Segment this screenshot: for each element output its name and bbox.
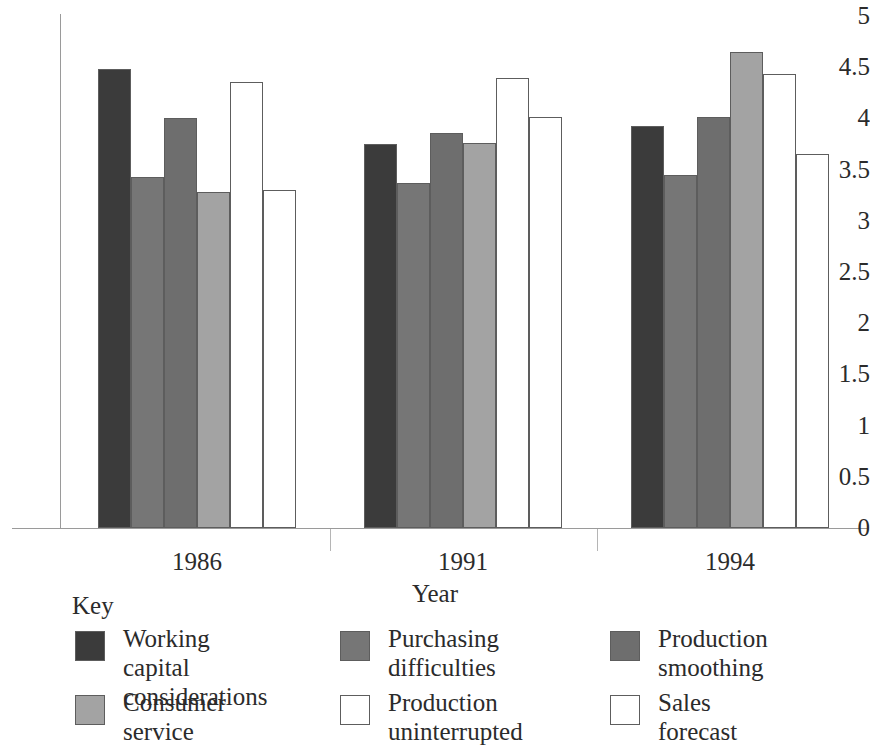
plot-area: 00.511.522.533.544.55 198619911994 Year xyxy=(0,0,870,600)
legend-swatch-icon xyxy=(610,631,640,661)
legend-swatch-icon xyxy=(340,695,370,725)
legend-item-label: Production smoothing xyxy=(658,624,768,682)
x-axis-line xyxy=(12,528,867,529)
x-axis-group-label: 1986 xyxy=(137,548,257,576)
legend-item-label: Sales forecast xyxy=(658,688,737,746)
y-axis-line xyxy=(60,14,61,529)
bar xyxy=(697,117,730,528)
bar xyxy=(730,52,763,528)
x-axis-group-separator xyxy=(330,529,331,551)
legend-item-label: Consumer service xyxy=(123,688,226,746)
bar xyxy=(230,82,263,528)
y-axis-tick-label: 5 xyxy=(820,3,870,28)
bar xyxy=(529,117,562,528)
bar xyxy=(164,118,197,528)
bar xyxy=(496,78,529,528)
legend-swatch-icon xyxy=(75,695,105,725)
y-axis-tick-label: 4.5 xyxy=(820,54,870,79)
bar xyxy=(197,192,230,528)
bar-chart: 00.511.522.533.544.55 198619911994 Year … xyxy=(0,0,870,747)
bar xyxy=(664,175,697,528)
y-axis-tick-label: 4 xyxy=(820,105,870,130)
x-axis-group-separator xyxy=(597,529,598,551)
bar xyxy=(263,190,296,528)
bar xyxy=(98,69,131,528)
bar xyxy=(796,154,829,528)
bar xyxy=(763,74,796,528)
bar xyxy=(463,143,496,528)
legend-title: Key xyxy=(72,592,114,620)
legend-swatch-icon xyxy=(610,695,640,725)
bar xyxy=(430,133,463,528)
bar xyxy=(631,126,664,528)
bar xyxy=(364,144,397,528)
legend-item-label: Production uninterrupted xyxy=(388,688,523,746)
bar xyxy=(397,183,430,528)
bar xyxy=(131,177,164,528)
x-axis-group-label: 1991 xyxy=(403,548,523,576)
legend-swatch-icon xyxy=(340,631,370,661)
x-axis-group-label: 1994 xyxy=(670,548,790,576)
legend-item-label: Purchasing difficulties xyxy=(388,624,499,682)
legend-swatch-icon xyxy=(75,631,105,661)
legend: Key Working capital considerationsPurcha… xyxy=(0,592,870,747)
